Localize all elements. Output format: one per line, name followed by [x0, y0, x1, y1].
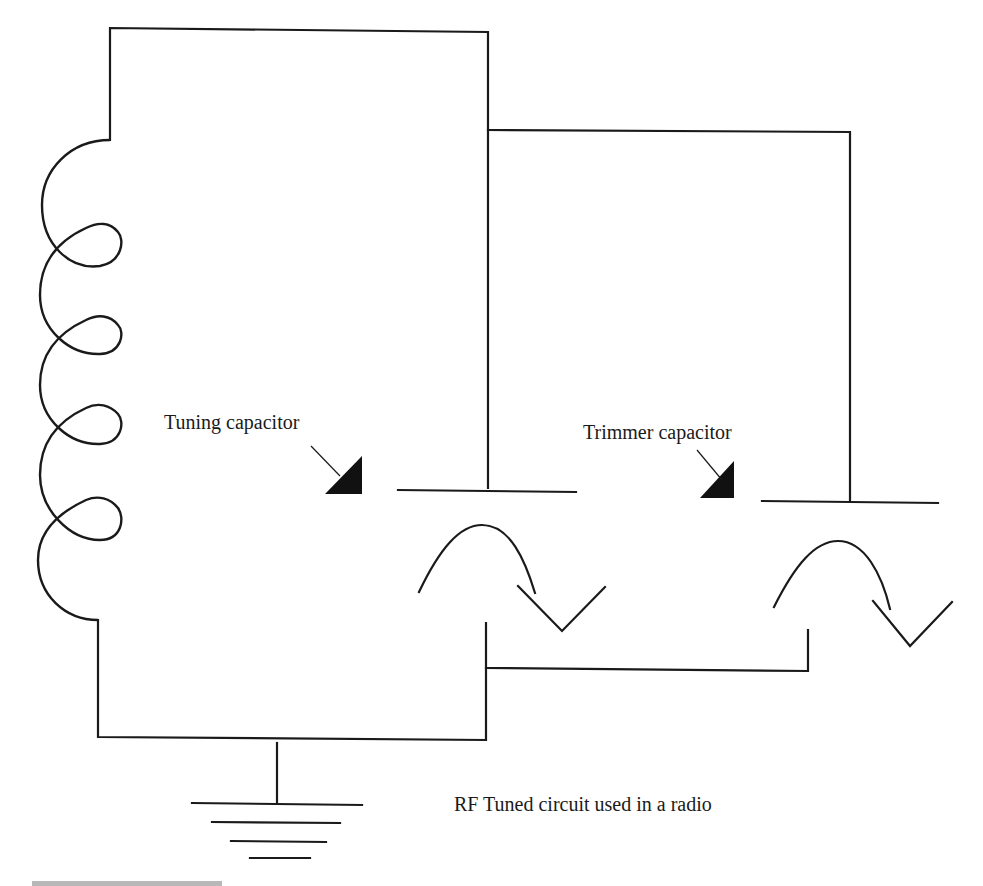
diagram-caption: RF Tuned circuit used in a radio: [454, 793, 712, 816]
trimmer-adjust-arrow-icon: [700, 461, 734, 498]
trimmer-capacitor-label: Trimmer capacitor: [583, 421, 732, 444]
main-loop-wire: [98, 28, 488, 740]
tuning-adjust-arrow-icon: [325, 456, 362, 494]
trimmer-capacitor: [486, 130, 952, 671]
ground-icon: [192, 743, 362, 858]
tuning-capacitor-label: Tuning capacitor: [164, 411, 299, 434]
inductor-coil-icon: [38, 140, 121, 620]
circuit-diagram: Tuning capacitor Trimmer capacitor RF Tu…: [0, 0, 983, 886]
tuning-capacitor: [311, 446, 605, 631]
scan-edge-bar: [32, 881, 222, 886]
